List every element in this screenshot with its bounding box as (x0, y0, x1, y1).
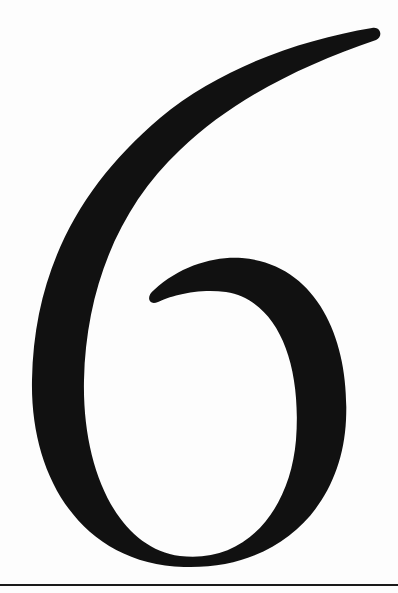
horizontal-rule (0, 584, 398, 586)
page: 6 (0, 0, 398, 593)
chapter-number-glyph (0, 0, 398, 593)
